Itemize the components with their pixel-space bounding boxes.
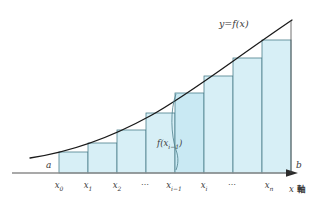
x-tick-label-xi-minus-1: xi−1 [166, 180, 182, 192]
annot-subscript: i−1 [168, 143, 179, 150]
x-tick-labels: x0 x1 x2 ⋯ xi−1 xi ⋯ xn [55, 180, 274, 192]
riemann-rectangle [88, 143, 117, 173]
x-axis-name-letter: x [289, 184, 294, 194]
x-tick-label-xi: xi [201, 180, 208, 192]
riemann-sum-figure: y=f(x) a b f(xi−1) x0 x1 x2 ⋯ xi−1 xi ⋯ … [0, 0, 313, 211]
riemann-rectangle [233, 58, 262, 173]
annot-close: ) [178, 138, 182, 148]
x-tick-label-x1: x1 [84, 180, 93, 192]
x-tick-label-x2: x2 [113, 180, 122, 192]
x-tick-label-xn: xn [265, 180, 274, 192]
riemann-rectangles [59, 40, 291, 173]
riemann-rectangle [204, 76, 233, 173]
x-tick-label-x0: x0 [55, 180, 64, 192]
annot-base: f(x [156, 138, 168, 148]
x-axis-arrowhead [286, 169, 298, 177]
riemann-rectangle-highlighted [175, 93, 204, 173]
x-axis-name-cjk: 軸 [297, 184, 306, 194]
right-endpoint-label: b [296, 160, 302, 170]
riemann-rectangle [117, 130, 146, 173]
riemann-rectangle [262, 40, 291, 173]
left-endpoint-label: a [46, 160, 51, 170]
curve-label: y=f(x) [218, 18, 249, 29]
riemann-rectangle [59, 152, 88, 173]
x-axis-name: x 軸 [289, 184, 306, 194]
x-tick-label-ellipsis-left: ⋯ [141, 180, 150, 189]
riemann-sum-canvas: y=f(x) a b f(xi−1) x0 x1 x2 ⋯ xi−1 xi ⋯ … [0, 0, 313, 211]
x-tick-label-ellipsis-right: ⋯ [228, 180, 237, 189]
